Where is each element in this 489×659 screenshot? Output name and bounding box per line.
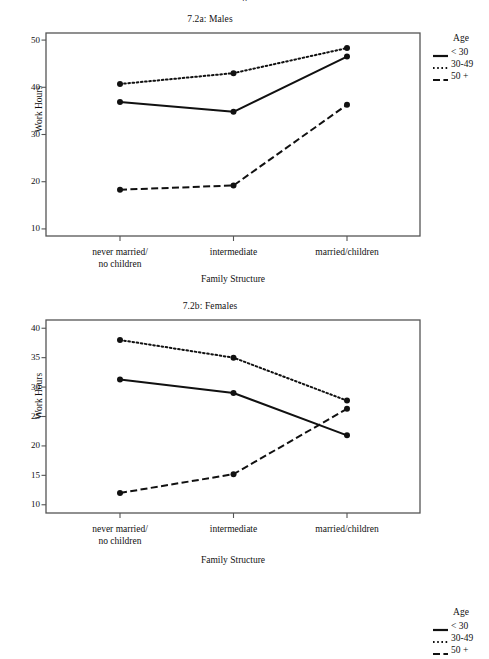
series-line--30 bbox=[120, 57, 347, 112]
data-point-marker bbox=[231, 109, 237, 115]
legend-rows: < 3030-4950 + bbox=[432, 620, 489, 656]
legend-line-swatch-dotted bbox=[432, 633, 449, 643]
data-point-marker bbox=[117, 99, 123, 105]
data-point-marker bbox=[344, 102, 350, 108]
series-line-30-49 bbox=[120, 48, 347, 84]
series-line-50- bbox=[120, 105, 347, 190]
data-point-marker bbox=[231, 70, 237, 76]
data-point-marker bbox=[117, 337, 123, 343]
data-point-marker bbox=[344, 432, 350, 438]
data-point-marker bbox=[117, 187, 123, 193]
legend-label: 50 + bbox=[451, 645, 468, 655]
plot-area-females bbox=[0, 287, 489, 577]
series-line-50- bbox=[120, 409, 347, 493]
data-point-marker bbox=[117, 490, 123, 496]
legend-females: Age < 3030-4950 + bbox=[432, 607, 489, 656]
legend-item-30-49[interactable]: 30-49 bbox=[432, 632, 489, 644]
legend-label: 30-49 bbox=[451, 633, 473, 643]
legend-item-50-plus[interactable]: 50 + bbox=[432, 644, 489, 656]
legend-line-swatch-dash-dot bbox=[432, 645, 449, 655]
data-point-marker bbox=[231, 355, 237, 361]
data-point-marker bbox=[117, 376, 123, 382]
data-point-marker bbox=[231, 471, 237, 477]
chart-panel-females: 7.2b: Females Work Hours Family Structur… bbox=[0, 287, 489, 577]
data-point-marker bbox=[344, 398, 350, 404]
legend-title: Age bbox=[438, 607, 484, 617]
plot-area-males bbox=[0, 0, 489, 290]
legend-item-under-30[interactable]: < 30 bbox=[432, 620, 489, 632]
data-point-marker bbox=[344, 54, 350, 60]
legend-line-swatch-solid bbox=[432, 621, 449, 631]
data-point-marker bbox=[344, 45, 350, 51]
legend-label: < 30 bbox=[451, 621, 468, 631]
data-point-marker bbox=[344, 406, 350, 412]
data-point-marker bbox=[231, 182, 237, 188]
chart-panel-males: 7.2a: Males Work Hours Family Structure … bbox=[0, 0, 489, 290]
data-point-marker bbox=[117, 81, 123, 87]
data-point-marker bbox=[231, 390, 237, 396]
